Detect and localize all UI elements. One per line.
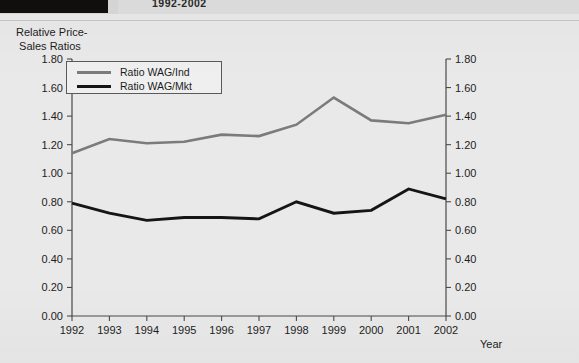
y-tick-label-right-0: 0.00: [455, 310, 476, 322]
x-tick-label-6: 1998: [284, 324, 308, 336]
y-tick-label-right-7: 1.40: [455, 110, 476, 122]
x-tick-label-1: 1993: [97, 324, 121, 336]
y-tick-label-left-5: 1.00: [42, 167, 63, 179]
y-tick-label-right-9: 1.80: [455, 53, 476, 65]
y-tick-label-right-5: 1.00: [455, 167, 476, 179]
x-tick-label-2: 1994: [135, 324, 159, 336]
y-tick-label-right-4: 0.80: [455, 196, 476, 208]
x-tick-label-5: 1997: [247, 324, 271, 336]
y-tick-label-left-0: 0.00: [42, 310, 63, 322]
x-tick-label-0: 1992: [60, 324, 84, 336]
y-tick-label-left-8: 1.60: [42, 82, 63, 94]
chart-svg: 0.000.000.200.200.400.400.600.600.800.80…: [0, 0, 579, 363]
x-tick-label-7: 1999: [322, 324, 346, 336]
y-tick-label-right-8: 1.60: [455, 82, 476, 94]
x-tick-label-9: 2001: [396, 324, 420, 336]
y-tick-label-left-1: 0.20: [42, 281, 63, 293]
x-tick-label-4: 1996: [209, 324, 233, 336]
y-tick-label-left-2: 0.40: [42, 253, 63, 265]
x-tick-label-3: 1995: [172, 324, 196, 336]
legend-label-0: Ratio WAG/Ind: [120, 66, 190, 78]
y-tick-label-left-7: 1.40: [42, 110, 63, 122]
y-tick-label-right-2: 0.40: [455, 253, 476, 265]
x-tick-label-10: 2002: [434, 324, 458, 336]
series-layer: [72, 98, 446, 221]
legend-swatch-1: [77, 85, 111, 88]
y-tick-label-left-9: 1.80: [42, 53, 63, 65]
left-bottom-axis: [72, 59, 446, 316]
legend-item-0: Ratio WAG/Ind: [77, 66, 221, 78]
legend-item-1: Ratio WAG/Mkt: [77, 80, 221, 92]
series-line-1: [72, 189, 446, 220]
y-tick-label-left-6: 1.20: [42, 139, 63, 151]
legend-swatch-0: [77, 71, 111, 74]
series-line-0: [72, 98, 446, 154]
y-tick-label-left-4: 0.80: [42, 196, 63, 208]
chart-plot-area: 0.000.000.200.200.400.400.600.600.800.80…: [0, 0, 579, 363]
x-tick-label-8: 2000: [359, 324, 383, 336]
legend-label-1: Ratio WAG/Mkt: [120, 80, 192, 92]
y-tick-label-right-1: 0.20: [455, 281, 476, 293]
y-tick-label-right-3: 0.60: [455, 224, 476, 236]
chart-legend: Ratio WAG/Ind Ratio WAG/Mkt: [66, 61, 222, 94]
y-tick-label-left-3: 0.60: [42, 224, 63, 236]
axis-layer: 0.000.000.200.200.400.400.600.600.800.80…: [42, 53, 477, 336]
y-tick-label-right-6: 1.20: [455, 139, 476, 151]
